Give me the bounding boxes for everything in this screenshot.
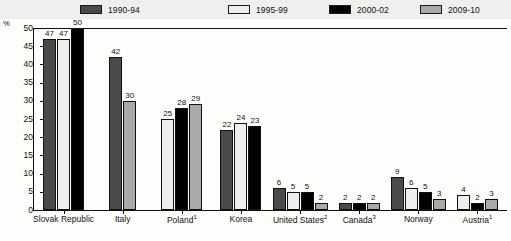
legend-item-2009-10: 2009-10: [420, 0, 480, 19]
chart-page: 1990-941995-992000-022009-10 % 504540353…: [0, 0, 511, 241]
bar-value-label: 23: [250, 116, 259, 126]
bar-1995-99-united-states: 5: [287, 192, 300, 210]
bar-value-label: 28: [177, 98, 186, 108]
bar-value-label: 2: [343, 193, 347, 203]
bar-group-poland: 252829Poland1: [152, 28, 211, 210]
x-axis-label-footnote: 2: [324, 214, 327, 220]
x-axis-label-text: Korea: [230, 214, 253, 224]
bar-2009-10-canada: 2: [367, 203, 380, 210]
bar-group-bars: 222423: [211, 28, 270, 210]
legend-item-1995-99: 1995-99: [228, 0, 288, 19]
bar-group-bars: 4230: [93, 28, 152, 210]
x-axis-label-footnote: 1: [193, 214, 196, 220]
legend-swatch-icon: [228, 5, 250, 14]
bar-group-bars: 474750: [34, 28, 93, 210]
legend-item-label: 1990-94: [108, 5, 140, 15]
y-axis-tick-label: 35: [24, 77, 33, 87]
bar-value-label: 47: [59, 29, 68, 39]
bar-2000-02-canada: 2: [353, 203, 366, 210]
bar-group-korea: 222423Korea: [211, 28, 270, 210]
bar-value-label: 6: [409, 178, 413, 188]
bar-2009-10-poland: 29: [189, 104, 202, 210]
bar-1995-99-poland: 25: [161, 119, 174, 210]
x-axis-label-text: Italy: [115, 214, 131, 224]
x-axis-label-text: Slovak Republic: [33, 214, 94, 224]
bar-2000-02-poland: 28: [175, 108, 188, 210]
y-axis-tick-label: 20: [24, 132, 33, 142]
bar-group-canada: 222Canada3: [330, 28, 389, 210]
y-axis-tick-label: 45: [24, 41, 33, 51]
bar-1995-99-austria: 4: [457, 195, 470, 210]
bar-value-label: 5: [423, 182, 427, 192]
bar-value-label: 2: [357, 193, 361, 203]
bar-group-bars: 6552: [271, 28, 330, 210]
x-axis-label-footnote: 3: [372, 214, 375, 220]
bar-value-label: 3: [437, 189, 441, 199]
bar-1995-99-norway: 6: [405, 188, 418, 210]
bar-1990-94-canada: 2: [339, 203, 352, 210]
bar-value-label: 5: [305, 182, 309, 192]
bar-2009-10-united-states: 2: [315, 203, 328, 210]
bar-group-bars: 252829: [152, 28, 211, 210]
y-axis-tick-label: 0: [28, 205, 33, 215]
y-axis-tick-label: 25: [24, 114, 33, 124]
y-axis-tick-label: 40: [24, 59, 33, 69]
bar-group-united-states: 6552United States2: [271, 28, 330, 210]
bar-value-label: 5: [291, 182, 295, 192]
legend-item-1990-94: 1990-94: [80, 0, 140, 19]
y-axis-tick-label: 30: [24, 95, 33, 105]
bar-value-label: 6: [277, 178, 281, 188]
bar-value-label: 47: [45, 29, 54, 39]
bar-1995-99-slovak-republic: 47: [57, 39, 70, 210]
x-axis-label-text: Norway: [404, 214, 433, 224]
bar-group-bars: 222: [330, 28, 389, 210]
x-axis-label-text: United States: [273, 215, 324, 225]
x-axis-label-norway: Norway: [404, 214, 433, 224]
legend-swatch-icon: [80, 5, 102, 14]
y-axis-tick-label: 5: [28, 186, 33, 196]
legend-item-label: 1995-99: [256, 5, 288, 15]
legend-item-2000-02: 2000-02: [329, 0, 389, 19]
bar-1995-99-korea: 24: [234, 123, 247, 210]
y-axis-unit-label: %: [3, 19, 10, 28]
bar-2009-10-italy: 30: [123, 101, 136, 210]
x-axis-label-poland: Poland1: [167, 214, 197, 225]
bar-1990-94-united-states: 6: [273, 188, 286, 210]
bar-group-slovak-republic: 474750Slovak Republic: [34, 28, 93, 210]
bar-value-label: 4: [461, 185, 465, 195]
bar-2000-02-austria: 2: [471, 203, 484, 210]
x-axis-label-text: Poland: [167, 215, 193, 225]
bar-value-label: 9: [395, 167, 399, 177]
bar-value-label: 50: [73, 18, 82, 28]
bar-group-austria: 423Austria1: [448, 28, 507, 210]
x-axis-label-austria: Austria1: [463, 214, 493, 225]
legend-swatch-icon: [420, 5, 442, 14]
bar-2000-02-united-states: 5: [301, 192, 314, 210]
bar-1990-94-norway: 9: [391, 177, 404, 210]
bar-1990-94-slovak-republic: 47: [43, 39, 56, 210]
y-axis-tick-label: 10: [24, 168, 33, 178]
y-axis-tick-label: 15: [24, 150, 33, 160]
x-axis-label-text: Canada: [343, 215, 373, 225]
bar-value-label: 29: [191, 94, 200, 104]
bar-2000-02-slovak-republic: 50: [71, 28, 84, 210]
x-axis-label-united-states: United States2: [273, 214, 327, 225]
bar-2000-02-norway: 5: [419, 192, 432, 210]
x-axis-label-canada: Canada3: [343, 214, 376, 225]
bar-value-label: 2: [475, 193, 479, 203]
y-axis-tick-label: 50: [24, 23, 33, 33]
bar-value-label: 3: [489, 189, 493, 199]
bar-group-italy: 4230Italy: [93, 28, 152, 210]
x-axis-label-text: Austria: [463, 215, 489, 225]
bar-2009-10-austria: 3: [485, 199, 498, 210]
x-axis-label-korea: Korea: [230, 214, 253, 224]
x-axis-label-slovak-republic: Slovak Republic: [33, 214, 94, 224]
legend-swatch-icon: [329, 5, 351, 14]
bar-group-norway: 9653Norway: [389, 28, 448, 210]
bar-value-label: 30: [125, 91, 134, 101]
bar-value-label: 25: [163, 109, 172, 119]
bars-layer: 474750Slovak Republic4230Italy252829Pola…: [34, 28, 507, 210]
bar-value-label: 24: [236, 113, 245, 123]
bar-2009-10-norway: 3: [433, 199, 446, 210]
legend-item-label: 2000-02: [357, 5, 389, 15]
